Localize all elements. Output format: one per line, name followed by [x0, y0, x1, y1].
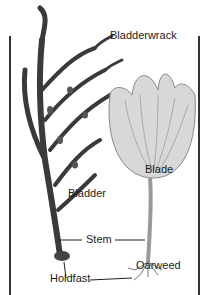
bladderwrack-plant	[24, 8, 122, 255]
label-bladder: Bladder	[68, 188, 106, 199]
label-stem: Stem	[86, 234, 112, 245]
bladderwrack-holdfast	[54, 251, 70, 261]
label-holdfast: Holdfast	[50, 273, 90, 284]
label-oarweed: Oarweed	[136, 260, 181, 271]
oarweed-plant	[109, 74, 195, 280]
illustration	[0, 0, 206, 295]
seaweed-diagram: Bladderwrack Bladder Blade Stem Oarweed …	[0, 0, 206, 295]
label-bladderwrack: Bladderwrack	[110, 30, 177, 41]
label-blade: Blade	[145, 164, 173, 175]
